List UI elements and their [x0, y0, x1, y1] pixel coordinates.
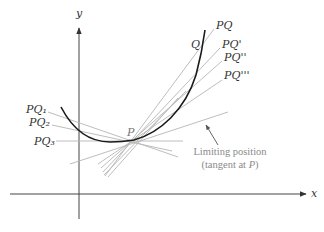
annotation-line1: Limiting position — [193, 146, 267, 157]
label-pq-triple-prime: PQ''' — [223, 69, 250, 82]
secant-extra-1 — [104, 91, 186, 175]
label-pq2: PQ₂ — [28, 116, 50, 129]
tangent-limit-diagram: P Q y x PQ PQ' PQ'' PQ''' PQ₁ PQ₂ PQ₃ Li… — [0, 0, 324, 232]
label-pq1: PQ₁ — [25, 103, 47, 116]
label-pq-prime: PQ' — [221, 38, 241, 51]
point-p-label: P — [126, 126, 135, 139]
annotation-line2: (tangent at P) — [201, 159, 259, 171]
label-pq3: PQ₃ — [33, 135, 55, 148]
annotation-suffix: ) — [255, 159, 259, 171]
point-q-label: Q — [191, 38, 200, 51]
label-pq: PQ — [215, 19, 232, 32]
label-pq-double-prime: PQ'' — [223, 51, 246, 64]
x-axis-label: x — [311, 187, 318, 200]
annotation-arrow — [206, 125, 218, 145]
annotation-prefix: (tangent at — [201, 159, 248, 171]
y-axis-label: y — [75, 7, 83, 20]
secant-pq2 — [52, 125, 172, 151]
